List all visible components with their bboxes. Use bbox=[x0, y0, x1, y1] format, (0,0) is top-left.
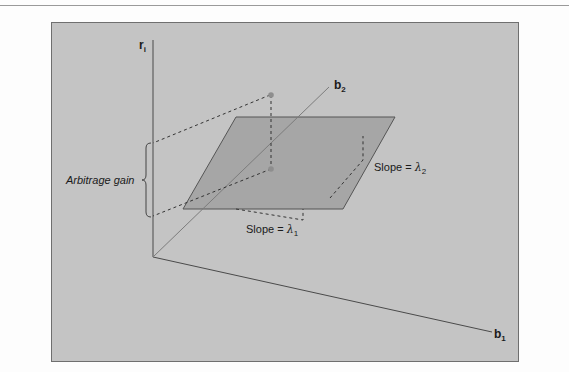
apt-plane-diagram bbox=[0, 0, 569, 372]
slope-lambda1-label: Slope = λ1 bbox=[246, 223, 298, 238]
arbitrage-brace bbox=[142, 143, 151, 217]
b2-axis-label: b2 bbox=[334, 78, 346, 94]
point-on-plane bbox=[268, 166, 274, 172]
ri-axis-label: ri bbox=[139, 38, 146, 54]
arbitrage-gain-label: Arbitrage gain bbox=[66, 174, 135, 186]
b1-axis-label: b1 bbox=[494, 327, 506, 343]
point-upper bbox=[268, 92, 274, 98]
slope-lambda2-label: Slope = λ2 bbox=[374, 161, 426, 176]
b1-axis bbox=[153, 257, 492, 332]
factor-plane bbox=[183, 117, 395, 209]
dashed-slope1 bbox=[236, 209, 303, 220]
